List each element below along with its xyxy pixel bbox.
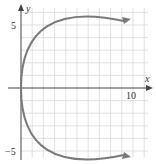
x-tick-label-10: 10 [126, 90, 136, 101]
parabola-chart: y x 10 5 −5 [0, 0, 156, 164]
curve-arrow-bottom-icon [122, 152, 131, 159]
y-tick-label-neg5: −5 [5, 146, 16, 157]
x-axis-arrow-icon [146, 85, 153, 91]
axes [8, 4, 153, 160]
y-axis-arrow-icon [18, 4, 24, 11]
y-axis-label: y [25, 3, 31, 14]
y-tick-label-5: 5 [11, 20, 16, 31]
curve-arrow-top-icon [122, 17, 131, 24]
x-axis-label: x [144, 73, 150, 84]
